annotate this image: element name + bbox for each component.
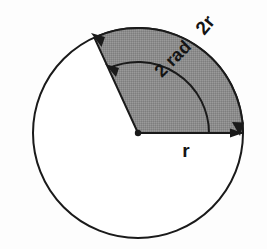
center-dot [135,130,141,136]
radius-label: r [182,140,190,161]
circle-sector-figure: 2r 2 rad r [0,0,267,249]
figure-canvas: 2r 2 rad r [0,0,267,249]
outer-arc-label: 2r [191,11,219,39]
